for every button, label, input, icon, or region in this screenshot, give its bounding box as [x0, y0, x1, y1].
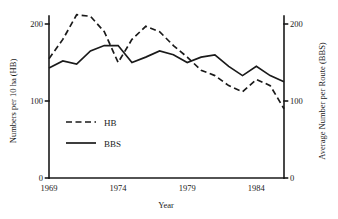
legend: HB BBS [66, 118, 121, 149]
axis-tick-label: 1979 [179, 183, 196, 193]
axis-tick-label: 0 [290, 173, 294, 183]
y-axis-label-left: Numbers per 10 ha (HB) [8, 59, 18, 144]
x-axis-ticks: 1969197419791984 [41, 183, 266, 193]
series-line-bbs [49, 46, 284, 82]
axis-tick-label: 1984 [248, 183, 266, 193]
axis-tick-label: 1974 [110, 183, 128, 193]
chart-figure: 0100200 0100200 1969197419791984 Numbers… [0, 0, 338, 219]
left-axis-ticks: 0100200 [30, 19, 49, 183]
legend-label-hb: HB [104, 118, 117, 128]
line-chart: 0100200 0100200 1969197419791984 Numbers… [0, 0, 338, 219]
right-axis-ticks: 0100200 [284, 19, 303, 183]
x-axis-label: Year [158, 200, 174, 210]
axis-tick-label: 0 [39, 173, 43, 183]
y-axis-label-right: Average Number per Route (BBS) [317, 42, 327, 160]
axis-tick-label: 200 [290, 19, 303, 29]
axis-tick-label: 1969 [41, 183, 58, 193]
legend-label-bbs: BBS [104, 139, 121, 149]
axis-tick-label: 200 [30, 19, 43, 29]
axis-tick-label: 100 [290, 96, 303, 106]
series-line-hb [49, 15, 284, 109]
axis-tick-label: 100 [30, 96, 43, 106]
